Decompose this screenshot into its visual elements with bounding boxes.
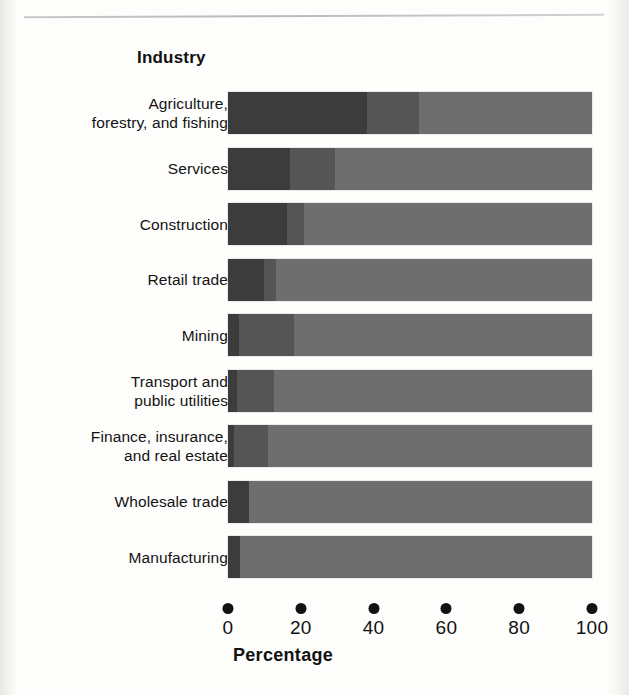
stacked-bar-chart: Industry Agriculture, forestry, and fish… <box>0 0 629 695</box>
bar-segment-segment-3[interactable] <box>304 203 592 245</box>
x-tick-dot <box>441 603 452 614</box>
bar-segment-segment-1[interactable] <box>228 481 249 523</box>
bar-segment-segment-3[interactable] <box>294 314 592 356</box>
bar-segment-segment-1[interactable] <box>228 536 240 578</box>
bar-segment-segment-2[interactable] <box>237 370 273 412</box>
category-label: Retail trade <box>148 270 228 289</box>
stacked-bar[interactable] <box>228 370 592 412</box>
bar-segment-segment-3[interactable] <box>268 425 592 467</box>
bar-segment-segment-2[interactable] <box>239 314 294 356</box>
scanned-figure-page: Industry Agriculture, forestry, and fish… <box>0 0 629 695</box>
bar-segment-segment-2[interactable] <box>287 203 304 245</box>
bar-segment-segment-1[interactable] <box>228 314 239 356</box>
stacked-bar[interactable] <box>228 148 592 190</box>
bar-segment-segment-3[interactable] <box>276 259 592 301</box>
stacked-bar[interactable] <box>228 425 592 467</box>
bar-segment-segment-1[interactable] <box>228 148 290 190</box>
category-label: Agriculture, forestry, and fishing <box>92 94 228 132</box>
category-label: Transport and public utilities <box>131 372 228 410</box>
x-tick-dot <box>368 603 379 614</box>
x-tick-label: 80 <box>508 617 530 639</box>
bar-segment-segment-2[interactable] <box>367 92 419 134</box>
x-tick-dot <box>587 603 598 614</box>
category-label: Manufacturing <box>128 548 228 567</box>
category-label: Mining <box>182 326 228 345</box>
bar-segment-segment-3[interactable] <box>274 370 592 412</box>
x-tick-label: 100 <box>576 617 609 639</box>
category-label: Finance, insurance, and real estate <box>91 427 228 465</box>
bar-segment-segment-3[interactable] <box>249 481 592 523</box>
x-tick-label: 0 <box>223 617 234 639</box>
stacked-bar[interactable] <box>228 481 592 523</box>
stacked-bar[interactable] <box>228 92 592 134</box>
x-tick-label: 20 <box>290 617 312 639</box>
bar-segment-segment-3[interactable] <box>335 148 592 190</box>
bar-segment-segment-1[interactable] <box>228 203 287 245</box>
stacked-bar[interactable] <box>228 536 592 578</box>
x-axis-title: Percentage <box>233 645 333 666</box>
bar-segment-segment-3[interactable] <box>240 536 592 578</box>
x-tick-label: 40 <box>363 617 385 639</box>
bar-segment-segment-2[interactable] <box>264 259 275 301</box>
bar-segment-segment-2[interactable] <box>234 425 268 467</box>
category-label: Wholesale trade <box>114 492 228 511</box>
stacked-bar[interactable] <box>228 259 592 301</box>
bar-segment-segment-3[interactable] <box>419 92 592 134</box>
category-axis-title: Industry <box>137 48 206 68</box>
stacked-bar[interactable] <box>228 314 592 356</box>
x-tick-dot <box>223 603 234 614</box>
stacked-bar[interactable] <box>228 203 592 245</box>
bar-segment-segment-1[interactable] <box>228 92 367 134</box>
bar-segment-segment-1[interactable] <box>228 259 264 301</box>
bar-segment-segment-1[interactable] <box>228 370 237 412</box>
x-tick-dot <box>514 603 525 614</box>
bar-segment-segment-2[interactable] <box>290 148 335 190</box>
x-tick-dot <box>295 603 306 614</box>
category-label: Construction <box>140 215 228 234</box>
category-label: Services <box>168 159 228 178</box>
x-tick-label: 60 <box>436 617 458 639</box>
